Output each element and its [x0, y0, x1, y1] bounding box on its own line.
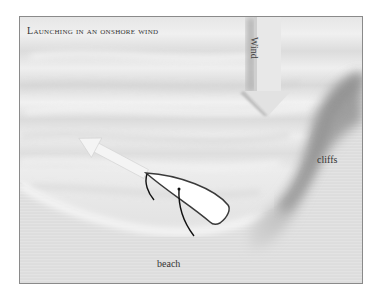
- beach-label: beach: [157, 258, 180, 269]
- diagram-frame: Launching in an onshore wind Wind cliffs…: [19, 16, 363, 284]
- cut-off-caption: [17, 0, 362, 3]
- cliffs-label: cliffs: [317, 154, 337, 165]
- diagram-canvas: [20, 17, 362, 283]
- wind-label: Wind: [249, 37, 260, 59]
- diagram-title: Launching in an onshore wind: [27, 25, 158, 36]
